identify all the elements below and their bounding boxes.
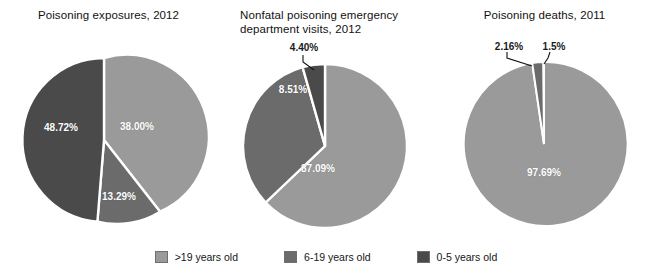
legend: >19 years old 6-19 years old 0-5 years o… — [0, 240, 652, 274]
legend-label-over19: >19 years old — [175, 251, 238, 263]
pie-svg — [0, 0, 217, 236]
chart-panel-poisoning-deaths: Poisoning deaths, 2011 97.69% 2.16% 1.5% — [436, 0, 652, 236]
chart-panel-nonfatal-ed-visits: Nonfatal poisoning emergency department … — [218, 0, 435, 236]
slice-callout-label-age6to19: 2.16% — [495, 41, 523, 52]
pie-slice-over19 — [464, 62, 628, 226]
legend-label-age0to5: 0-5 years old — [437, 251, 498, 263]
legend-swatch-icon-age6to19 — [284, 251, 297, 263]
pie-svg — [218, 0, 435, 236]
pie-slice-age0to5 — [22, 58, 104, 222]
pie-svg — [436, 0, 652, 236]
pie-chart-figure: Poisoning exposures, 2012 38.00% 13.29% … — [0, 0, 652, 276]
legend-item-age0to5: 0-5 years old — [417, 251, 498, 263]
slice-callout-label-age0to5: 4.40% — [290, 42, 318, 53]
pie-slice-age0to5 — [543, 62, 544, 144]
slice-callout-label-age0to5: 1.5% — [543, 41, 566, 52]
legend-swatch-icon-age0to5 — [417, 251, 430, 263]
legend-label-age6to19: 6-19 years old — [304, 251, 371, 263]
pie-chart: 87.09% 8.51% 4.40% — [218, 0, 435, 236]
pie-chart: 97.69% 2.16% 1.5% — [436, 0, 652, 236]
legend-item-age6to19: 6-19 years old — [284, 251, 371, 263]
legend-item-over19: >19 years old — [155, 251, 238, 263]
legend-swatch-icon-over19 — [155, 251, 168, 263]
chart-panel-poisoning-exposures: Poisoning exposures, 2012 38.00% 13.29% … — [0, 0, 217, 236]
pie-chart: 38.00% 13.29% 48.72% — [0, 0, 217, 236]
